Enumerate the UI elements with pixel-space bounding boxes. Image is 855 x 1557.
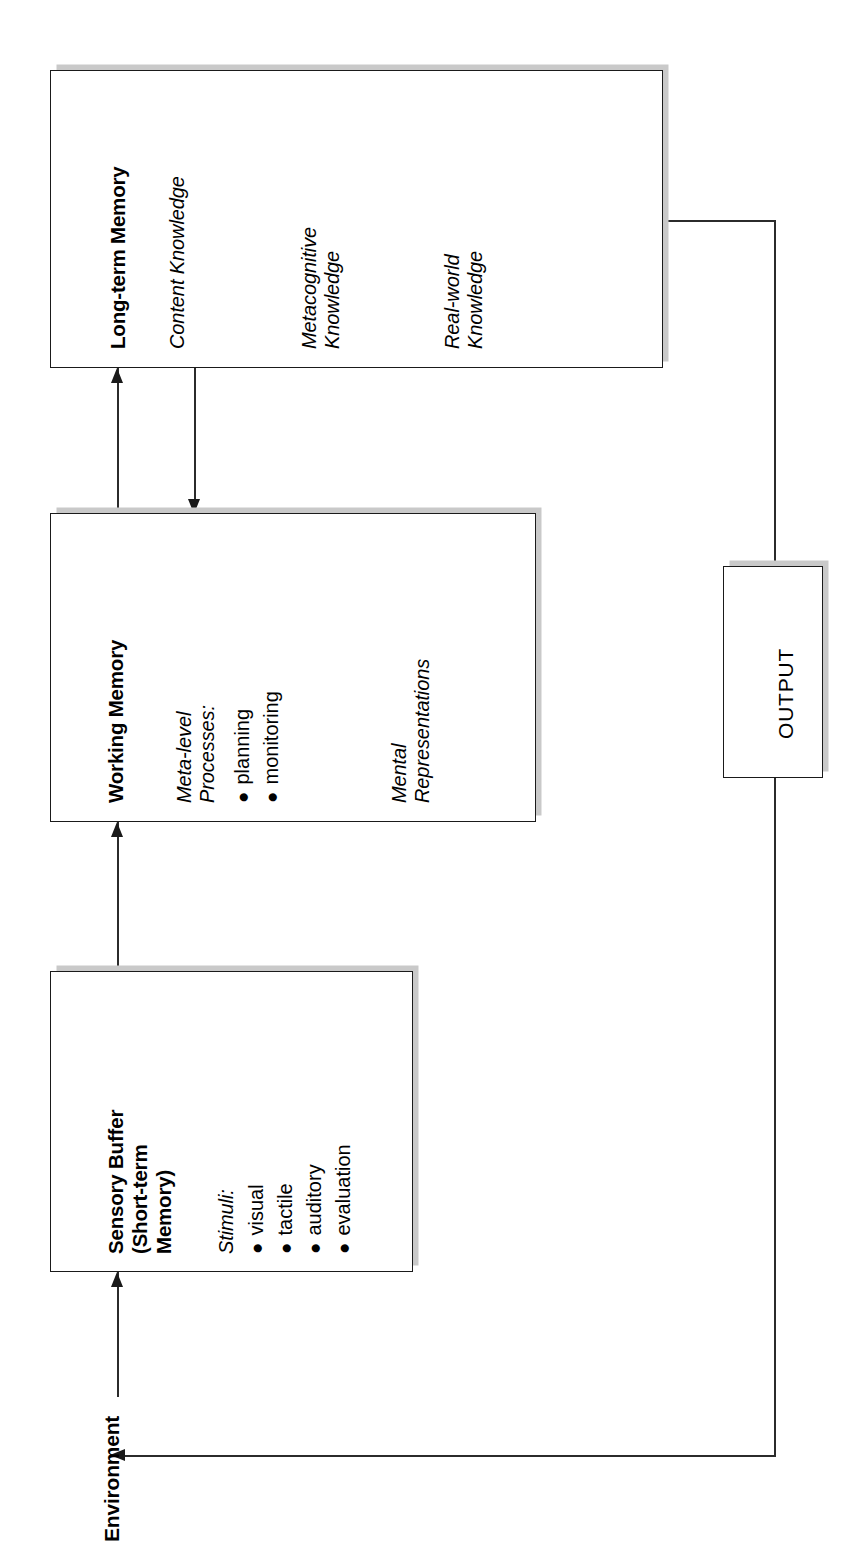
connector-long-term-memory-to-output-horizontal bbox=[663, 220, 776, 222]
bullet-dot-icon: ● bbox=[233, 792, 252, 803]
bullet-dot-icon: ● bbox=[262, 792, 281, 803]
diagram-canvas: Long-term Memory Content Knowledge Metac… bbox=[0, 0, 855, 1557]
connector-working-memory-to-long-term-memory bbox=[117, 368, 119, 514]
meta-level-line-1: Meta-level bbox=[173, 705, 196, 803]
metacognitive-line-1: Metacognitive bbox=[298, 227, 321, 349]
box-working-memory: Working Memory Meta-level Processes: ● p… bbox=[50, 513, 536, 822]
connector-long-term-memory-to-working-memory bbox=[194, 368, 196, 514]
sensory-buffer-bullet-visual: ● visual bbox=[245, 1184, 268, 1254]
working-memory-bullet-planning: ● planning bbox=[231, 709, 254, 803]
long-term-memory-content: Long-term Memory Content Knowledge Metac… bbox=[51, 71, 662, 367]
bullet-dot-icon: ● bbox=[305, 1243, 324, 1254]
metacognitive-line-2: Knowledge bbox=[321, 227, 344, 349]
sensory-buffer-bullet-auditory-label: auditory bbox=[303, 1164, 326, 1235]
working-memory-title: Working Memory bbox=[104, 640, 128, 803]
arrowhead-sensory-buffer-to-working-memory bbox=[111, 822, 123, 837]
long-term-memory-title: Long-term Memory bbox=[106, 167, 130, 349]
sensory-buffer-bullet-evaluation-label: evaluation bbox=[332, 1144, 355, 1235]
box-sensory-buffer: Sensory Buffer (Short-term Memory) Stimu… bbox=[50, 971, 413, 1272]
sensory-buffer-bullet-tactile: ● tactile bbox=[274, 1183, 297, 1254]
output-label: OUTPUT bbox=[774, 648, 799, 739]
environment-label: Environment bbox=[100, 1416, 124, 1542]
real-world-line-2: Knowledge bbox=[464, 251, 487, 349]
working-memory-meta-level-processes-label: Meta-level Processes: bbox=[173, 705, 220, 803]
box-long-term-memory: Long-term Memory Content Knowledge Metac… bbox=[50, 70, 663, 368]
sensory-buffer-title-line-3: Memory) bbox=[152, 1110, 176, 1254]
long-term-memory-item-real-world-knowledge: Real-world Knowledge bbox=[441, 251, 488, 349]
sensory-buffer-title: Sensory Buffer (Short-term Memory) bbox=[104, 1110, 176, 1254]
arrowhead-environment-to-sensory-buffer bbox=[111, 1272, 123, 1287]
connector-environment-to-sensory-buffer bbox=[117, 1272, 119, 1397]
connector-long-term-memory-to-output-vertical bbox=[774, 220, 776, 567]
sensory-buffer-bullet-tactile-label: tactile bbox=[274, 1183, 297, 1235]
sensory-buffer-bullet-auditory: ● auditory bbox=[303, 1164, 326, 1254]
sensory-buffer-stimuli-label: Stimuli: bbox=[215, 1189, 238, 1254]
bullet-dot-icon: ● bbox=[247, 1243, 266, 1254]
output-content: OUTPUT bbox=[724, 567, 822, 777]
real-world-line-1: Real-world bbox=[441, 251, 464, 349]
long-term-memory-item-content-knowledge: Content Knowledge bbox=[166, 176, 189, 349]
connector-output-to-environment-horizontal bbox=[124, 1455, 776, 1457]
bullet-dot-icon: ● bbox=[334, 1243, 353, 1254]
bullet-dot-icon: ● bbox=[276, 1243, 295, 1254]
meta-level-line-2: Processes: bbox=[196, 705, 219, 803]
arrowhead-long-term-memory-to-working-memory bbox=[188, 499, 200, 514]
working-memory-mental-representations: Mental Representations bbox=[388, 659, 435, 803]
sensory-buffer-title-line-1: Sensory Buffer bbox=[104, 1110, 128, 1254]
sensory-buffer-bullet-visual-label: visual bbox=[245, 1184, 268, 1235]
working-memory-bullet-monitoring: ● monitoring bbox=[260, 691, 283, 803]
working-memory-content: Working Memory Meta-level Processes: ● p… bbox=[51, 514, 535, 821]
mental-representations-line-1: Mental bbox=[388, 659, 411, 803]
mental-representations-line-2: Representations bbox=[411, 659, 434, 803]
connector-output-to-environment-vertical bbox=[774, 778, 776, 1456]
connector-sensory-buffer-to-working-memory bbox=[117, 822, 119, 972]
long-term-memory-item-metacognitive-knowledge: Metacognitive Knowledge bbox=[298, 227, 345, 349]
working-memory-bullet-planning-label: planning bbox=[231, 709, 254, 785]
arrowhead-working-memory-to-long-term-memory bbox=[111, 368, 123, 383]
sensory-buffer-bullet-evaluation: ● evaluation bbox=[332, 1144, 355, 1254]
box-output: OUTPUT bbox=[723, 566, 823, 778]
sensory-buffer-title-line-2: (Short-term bbox=[128, 1110, 152, 1254]
sensory-buffer-content: Sensory Buffer (Short-term Memory) Stimu… bbox=[51, 972, 412, 1271]
working-memory-bullet-monitoring-label: monitoring bbox=[260, 691, 283, 784]
